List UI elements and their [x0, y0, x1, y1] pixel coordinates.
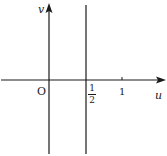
tick-label-half: 1 2	[88, 84, 96, 105]
v-axis-label: v	[38, 4, 44, 15]
diagram-svg	[0, 0, 167, 156]
half-denominator: 2	[88, 96, 96, 105]
origin-label: O	[37, 86, 46, 97]
u-axis-label: u	[155, 90, 162, 101]
coordinate-diagram: v u O 1 2 1	[0, 0, 167, 156]
tick-label-one: 1	[119, 87, 125, 97]
half-numerator: 1	[88, 84, 96, 93]
